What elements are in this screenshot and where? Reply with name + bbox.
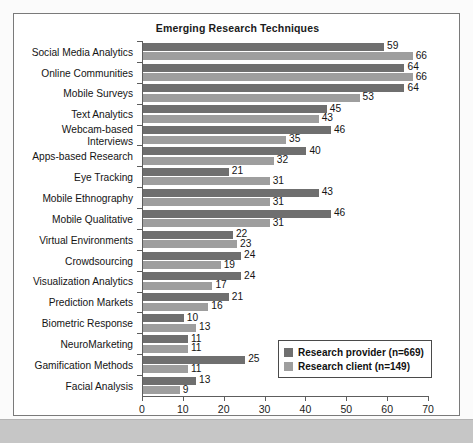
y-axis-tick [137, 250, 142, 251]
bar-row: Webcam-based Interviews4635 [142, 125, 428, 146]
bar-value-label: 35 [289, 133, 300, 144]
bar-client [143, 219, 270, 227]
category-label: Visualization Analytics [15, 276, 133, 288]
category-label: Text Analytics [15, 109, 133, 121]
y-axis-tick [137, 375, 142, 376]
bar-provider [143, 314, 184, 322]
x-axis-tick-label: 20 [204, 403, 244, 415]
bar-client [143, 303, 208, 311]
bar-provider [143, 105, 327, 113]
bar-client [143, 94, 360, 102]
bar-value-label: 25 [248, 353, 259, 364]
bar-client [143, 73, 413, 81]
y-axis-tick [137, 125, 142, 126]
bar-value-label: 59 [387, 40, 398, 51]
category-label: NeuroMarketing [15, 339, 133, 351]
bar-row: Social Media Analytics5966 [142, 41, 428, 62]
y-axis-tick [137, 312, 142, 313]
category-label: Virtual Environments [15, 235, 133, 247]
y-axis-tick [137, 166, 142, 167]
legend-item-research-provider: Research provider (n=669) [284, 345, 424, 359]
x-axis-tick-label: 40 [285, 403, 325, 415]
bar-provider [143, 168, 229, 176]
category-label: Eye Tracking [15, 172, 133, 184]
bar-client [143, 365, 188, 373]
bar-value-label: 21 [232, 165, 243, 176]
y-axis-tick [137, 187, 142, 188]
page-bottom-band [0, 419, 473, 443]
bar-row: Mobile Qualitative4631 [142, 208, 428, 229]
bar-client [143, 345, 188, 353]
chart-panel: Emerging Research Techniques 01020304050… [13, 13, 460, 416]
bar-value-label: 31 [273, 196, 284, 207]
bar-row: Crowdsourcing2419 [142, 250, 428, 271]
category-label: Crowdsourcing [15, 256, 133, 268]
bar-client [143, 157, 274, 165]
x-axis-tick [387, 396, 388, 401]
bar-row: Prediction Markets2116 [142, 292, 428, 313]
y-axis-tick [137, 354, 142, 355]
bar-row: Mobile Ethnography4331 [142, 187, 428, 208]
category-label: Mobile Qualitative [15, 214, 133, 226]
bar-row: Facial Analysis139 [142, 375, 428, 396]
bar-value-label: 32 [277, 154, 288, 165]
y-axis-tick [137, 83, 142, 84]
bar-client [143, 282, 212, 290]
bar-client [143, 177, 270, 185]
x-axis-tick [305, 396, 306, 401]
bar-client [143, 324, 196, 332]
bar-value-label: 66 [416, 50, 427, 61]
bar-row: Biometric Response1013 [142, 312, 428, 333]
legend-swatch-icon [284, 348, 293, 357]
y-axis-tick [137, 271, 142, 272]
category-label: Mobile Ethnography [15, 193, 133, 205]
legend-item-research-client: Research client (n=149) [284, 359, 424, 373]
category-label: Prediction Markets [15, 297, 133, 309]
bar-value-label: 31 [273, 175, 284, 186]
bar-value-label: 40 [309, 145, 320, 156]
bar-value-label: 24 [244, 270, 255, 281]
chart-title: Emerging Research Techniques [14, 22, 461, 34]
bar-provider [143, 231, 233, 239]
bar-row: Mobile Surveys6453 [142, 83, 428, 104]
bar-value-label: 19 [224, 259, 235, 270]
bar-client [143, 136, 286, 144]
chart-legend: Research provider (n=669) Research clien… [278, 340, 432, 378]
bar-provider [143, 126, 331, 134]
bar-value-label: 11 [191, 342, 202, 353]
x-axis-tick-label: 10 [163, 403, 203, 415]
bar-value-label: 16 [211, 300, 222, 311]
bar-value-label: 43 [322, 186, 333, 197]
x-axis-tick [265, 396, 266, 401]
category-label: Apps-based Research [15, 151, 133, 163]
bar-row: Virtual Environments2223 [142, 229, 428, 250]
x-axis-tick-label: 60 [367, 403, 407, 415]
bar-value-label: 13 [199, 374, 210, 385]
x-axis-tick-label: 70 [408, 403, 448, 415]
bar-row: Apps-based Research4032 [142, 145, 428, 166]
bar-value-label: 9 [183, 384, 189, 395]
bar-value-label: 23 [240, 238, 251, 249]
bar-value-label: 46 [334, 207, 345, 218]
y-axis-tick [137, 333, 142, 334]
x-axis-tick-label: 30 [245, 403, 285, 415]
category-label: Mobile Surveys [15, 88, 133, 100]
bar-value-label: 13 [199, 321, 210, 332]
y-axis-tick [137, 41, 142, 42]
bar-row: Online Communities6466 [142, 62, 428, 83]
bar-provider [143, 210, 331, 218]
category-label: Gamification Methods [15, 360, 133, 372]
bar-value-label: 10 [187, 312, 198, 323]
bar-client [143, 240, 237, 248]
category-label: Biometric Response [15, 318, 133, 330]
x-axis-tick-label: 0 [122, 403, 162, 415]
y-axis-tick [137, 62, 142, 63]
x-axis-line [142, 396, 428, 397]
bar-value-label: 53 [363, 91, 374, 102]
x-axis-tick-label: 50 [326, 403, 366, 415]
category-label: Facial Analysis [15, 381, 133, 393]
y-axis-tick [137, 208, 142, 209]
y-axis-tick [137, 104, 142, 105]
bar-value-label: 64 [407, 82, 418, 93]
